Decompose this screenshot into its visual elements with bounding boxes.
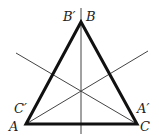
label-a-prime: A′: [136, 101, 149, 116]
label-c-prime: C′: [14, 101, 27, 116]
label-c: C: [140, 119, 150, 134]
label-b-prime: B′: [62, 9, 76, 24]
label-a: A: [8, 119, 18, 134]
triangle-symmetry-diagram: B′ B C′ A A′ C: [0, 0, 159, 140]
label-b: B: [85, 9, 96, 24]
